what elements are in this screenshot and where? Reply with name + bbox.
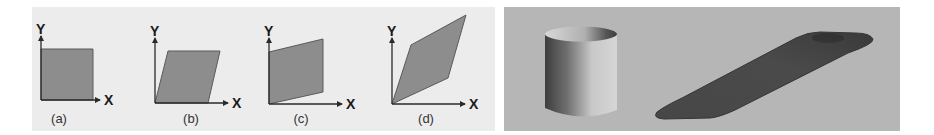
transformed-shape	[392, 15, 466, 104]
figure-canvas: XY(a)XY(b)XY(c)XY(d)	[0, 0, 934, 135]
transformed-shape	[41, 49, 93, 100]
y-axis-label: Y	[387, 23, 397, 39]
subfigure-a: XY(a)	[36, 21, 114, 126]
x-axis-label: X	[232, 95, 242, 111]
subfigure-d: XY(d)	[387, 15, 479, 126]
transformed-shape	[155, 51, 220, 103]
subfigure-caption: (d)	[418, 111, 434, 126]
y-axis-label: Y	[264, 23, 274, 39]
sheared-slab	[656, 32, 874, 119]
x-axis-label: X	[469, 96, 479, 112]
y-axis-label: Y	[150, 23, 160, 39]
cylinder	[545, 27, 617, 117]
subfigure-caption: (c)	[293, 111, 308, 126]
y-axis-label: Y	[36, 21, 46, 37]
transformed-shape	[269, 39, 323, 104]
x-axis-label: X	[104, 92, 114, 108]
subfigure-c: XY(c)	[264, 23, 356, 126]
subfigure-caption: (a)	[51, 111, 67, 126]
subfigure-b: XY(b)	[150, 23, 242, 126]
subfigure-group: XY(a)XY(b)XY(c)XY(d)	[36, 15, 479, 126]
subfigure-caption: (b)	[183, 111, 199, 126]
x-axis-label: X	[346, 96, 356, 112]
